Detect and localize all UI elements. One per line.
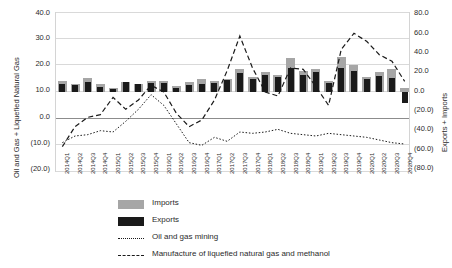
- y-axis-right-title: Exports + Imports: [440, 93, 449, 152]
- legend: Imports Exports Oil and gas mining Manuf…: [118, 196, 418, 264]
- y-tick-left-2: 20.0: [18, 59, 50, 68]
- x-axis-tick-label: 2015Q1: [115, 153, 121, 174]
- x-axis-tick-label: 2020Q4: [407, 153, 413, 174]
- x-axis-tick-label: 2016Q2: [178, 153, 184, 174]
- legend-item-exports: Exports: [118, 213, 418, 230]
- x-axis-tick-label: 2018Q2: [280, 153, 286, 174]
- x-axis-tick-label: 2017Q3: [242, 153, 248, 174]
- legend-swatch-exports: [118, 217, 144, 226]
- x-axis-tick-label: 2017Q2: [229, 153, 235, 174]
- y-tick-left-3: 10.0: [18, 85, 50, 94]
- x-axis-tick-label: 2017Q1: [216, 153, 222, 174]
- y-tick-right-0: 80.0: [414, 8, 429, 17]
- y-tick-right-1: 60.0: [414, 28, 429, 37]
- legend-label-exports: Exports: [152, 215, 179, 224]
- y-tick-left-5: (10.0): [18, 138, 50, 147]
- y-tick-right-4: 0.0: [414, 86, 424, 95]
- line-lng-methanol: [62, 33, 404, 146]
- y-tick-right-6: (40.0): [414, 124, 434, 133]
- plot-area: [55, 12, 410, 172]
- legend-label-oil-and-gas-mining: Oil and gas mining: [152, 232, 218, 241]
- x-axis-tick-label: 2018Q3: [293, 153, 299, 174]
- chart-container: Oil and Gas + Liquefied Natural Gas Expo…: [0, 0, 452, 268]
- y-tick-left-6: (20.0): [18, 164, 50, 173]
- x-axis-tick-label: 2015Q2: [128, 153, 134, 174]
- line-series-group: [56, 12, 411, 172]
- y-tick-right-5: (20.0): [414, 105, 434, 114]
- legend-line-oil-and-gas-mining: [118, 238, 144, 239]
- y-tick-right-7: (60.0): [414, 144, 434, 153]
- y-tick-right-3: 20.0: [414, 66, 429, 75]
- x-axis-tick-label: 2019Q1: [318, 153, 324, 174]
- legend-label-lng-methanol: Manufacture of liquefied natural gas and…: [152, 249, 330, 258]
- x-axis-tick-label: 2016Q1: [166, 153, 172, 174]
- y-tick-left-4: 0.0: [18, 112, 50, 121]
- x-axis-tick-label: 2020Q2: [381, 153, 387, 174]
- legend-item-lng-methanol: Manufacture of liquefied natural gas and…: [118, 247, 418, 264]
- y-tick-right-8: (80.0): [414, 163, 434, 172]
- legend-item-oil-and-gas-mining: Oil and gas mining: [118, 230, 418, 247]
- x-axis-tick-label: 2014Q4: [102, 153, 108, 174]
- x-axis-tick-label: 2019Q2: [331, 153, 337, 174]
- x-axis-tick-label: 2014Q3: [90, 153, 96, 174]
- line-oil-and-gas-mining: [62, 95, 404, 146]
- x-axis-tick-label: 2015Q3: [140, 153, 146, 174]
- y-tick-left-0: 40.0: [18, 8, 50, 17]
- x-axis-tick-label: 2014Q2: [77, 153, 83, 174]
- legend-swatch-imports: [118, 200, 144, 209]
- x-axis-tick-label: 2016Q3: [191, 153, 197, 174]
- x-axis-tick-label: 2020Q3: [394, 153, 400, 174]
- legend-line-lng-methanol: [118, 255, 144, 256]
- x-axis-tick-label: 2019Q3: [343, 153, 349, 174]
- x-axis-tick-label: 2017Q4: [255, 153, 261, 174]
- x-axis-tick-label: 2016Q4: [204, 153, 210, 174]
- x-axis-tick-label: 2020Q1: [369, 153, 375, 174]
- x-axis-tick-label: 2019Q4: [356, 153, 362, 174]
- x-axis-tick-label: 2014Q1: [64, 153, 70, 174]
- legend-item-imports: Imports: [118, 196, 418, 213]
- y-tick-right-2: 40.0: [414, 47, 429, 56]
- x-axis-tick-label: 2018Q4: [305, 153, 311, 174]
- x-axis-tick-label: 2018Q1: [267, 153, 273, 174]
- legend-label-imports: Imports: [152, 198, 179, 207]
- y-tick-left-1: 30.0: [18, 33, 50, 42]
- x-axis-tick-label: 2015Q4: [153, 153, 159, 174]
